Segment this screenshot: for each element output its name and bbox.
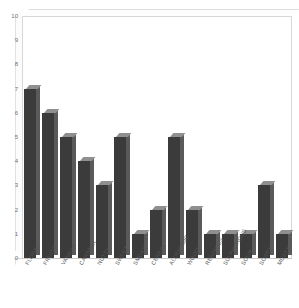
bar-side-face [54,111,58,255]
bar[interactable] [258,185,275,258]
bar-side-face [234,232,238,255]
bars-layer [22,16,292,258]
x-axis-baseline [22,258,292,259]
bar[interactable] [168,137,185,258]
bar-front-face [132,234,144,258]
bar-side-face [198,208,202,255]
bar[interactable] [60,137,77,258]
bar[interactable] [42,113,59,258]
bar-side-face [144,232,148,255]
y-axis-tick-label: 6 [0,110,18,116]
bar[interactable] [96,185,113,258]
y-axis-tick-label: 10 [0,13,18,19]
bar[interactable] [114,137,131,258]
bar-front-face [168,137,180,258]
bar-side-face [216,232,220,255]
y-axis-tick-label: 2 [0,207,18,213]
bar-front-face [114,137,126,258]
bar-front-face [276,234,288,258]
bar[interactable] [204,234,221,258]
bar-front-face [78,161,90,258]
bar-side-face [36,87,40,255]
bar[interactable] [132,234,149,258]
bar-front-face [24,89,36,258]
y-axis-tick-label: 9 [0,37,18,43]
bar[interactable] [150,210,167,258]
y-axis-tick-label: 0 [0,255,18,261]
y-axis-tick-label: 7 [0,86,18,92]
bar[interactable] [186,210,203,258]
bar-side-face [162,208,166,255]
bar-front-face [222,234,234,258]
bar[interactable] [24,89,41,258]
y-axis-tick-label: 8 [0,61,18,67]
bar-chart: 012345678910 FLORALFRUITYVANILLACARAMELN… [0,0,299,308]
bar-side-face [90,159,94,255]
bar-front-face [240,234,252,258]
bar-front-face [186,210,198,258]
bar-front-face [96,185,108,258]
y-axis-tick-label: 1 [0,231,18,237]
bar[interactable] [78,161,95,258]
bar[interactable] [276,234,293,258]
bar[interactable] [222,234,239,258]
bar[interactable] [240,234,257,258]
bar-side-face [270,183,274,255]
y-axis-tick-label: 5 [0,134,18,140]
bar-front-face [204,234,216,258]
bar-front-face [42,113,54,258]
bar-side-face [180,135,184,255]
bar-side-face [108,183,112,255]
y-axis-tick-label: 4 [0,158,18,164]
bar-side-face [126,135,130,255]
bar-side-face [288,232,292,255]
bar-front-face [258,185,270,258]
bar-side-face [72,135,76,255]
y-axis-tick-label: 3 [0,182,18,188]
bar-side-face [252,232,256,255]
bar-front-face [60,137,72,258]
bar-front-face [150,210,162,258]
